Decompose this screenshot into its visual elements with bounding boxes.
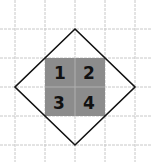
cell-label-2: 2	[83, 63, 95, 83]
cell-label-3: 3	[53, 93, 65, 113]
cell-label-1: 1	[54, 63, 66, 83]
diagram-canvas: 1 2 3 4	[0, 0, 152, 162]
cell-label-4: 4	[83, 93, 95, 113]
